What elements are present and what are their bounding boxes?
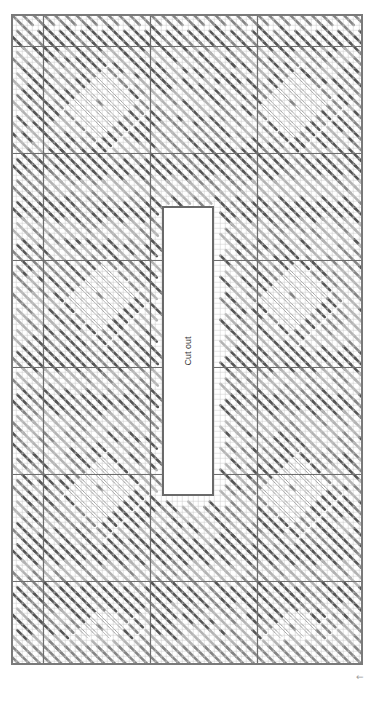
cutout-label: Cut out (183, 336, 193, 365)
orientation-arrow-icon: ↑ (355, 673, 365, 681)
cutout-region: Cut out (162, 206, 214, 496)
stitch-chart: Cut out (11, 14, 363, 665)
stitch-chart-page: Cut out ↑ (0, 0, 375, 704)
